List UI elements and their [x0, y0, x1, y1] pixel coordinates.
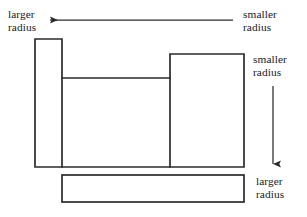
label-mid-right-line2: radius [253, 66, 287, 79]
label-top-right-line2: radius [243, 21, 277, 34]
label-top-left-line2: radius [8, 21, 36, 34]
label-bottom-right-larger-radius: larger radius [256, 175, 284, 201]
label-top-right-line1: smaller [243, 8, 277, 21]
label-top-right-smaller-radius: smaller radius [243, 8, 277, 34]
label-mid-right-smaller-radius: smaller radius [253, 53, 287, 79]
diagram-canvas: larger radius smaller radius smaller rad… [0, 0, 307, 217]
label-bottom-right-line2: radius [256, 188, 284, 201]
bottom-bar-rectangle [62, 175, 244, 202]
label-top-left-line1: larger [8, 8, 36, 21]
label-mid-right-line1: smaller [253, 53, 287, 66]
label-bottom-right-line1: larger [256, 175, 284, 188]
label-top-left-larger-radius: larger radius [8, 8, 36, 34]
stepped-profile-outline [35, 39, 244, 167]
